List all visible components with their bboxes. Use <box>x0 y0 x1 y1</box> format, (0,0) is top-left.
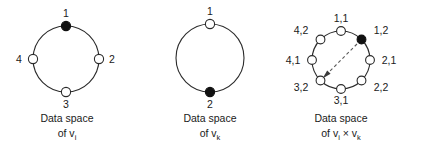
ring-vi <box>33 26 99 92</box>
caption-vixvk-line1: Data space <box>314 112 367 124</box>
caption-vi-prefix: of v <box>58 127 76 139</box>
node-label-vixvk-2-2: 2,2 <box>374 81 389 93</box>
node-vixvk-1-2[interactable] <box>357 35 366 44</box>
node-label-vixvk-2-1: 2,1 <box>382 54 397 66</box>
node-vi-2[interactable] <box>94 54 103 63</box>
caption-vixvk-prefix: of v <box>321 127 339 139</box>
node-label-vi-3: 3 <box>63 98 69 110</box>
node-label-vixvk-4-1: 4,1 <box>286 54 301 66</box>
caption-vi-line1: Data space <box>40 112 93 124</box>
node-label-vixvk-3-1: 3,1 <box>334 94 349 106</box>
node-vixvk-4-2[interactable] <box>316 35 325 44</box>
transition-arrow-head <box>323 70 331 78</box>
node-vk-1[interactable] <box>205 19 214 28</box>
node-vixvk-2-1[interactable] <box>366 56 375 65</box>
node-vi-1[interactable] <box>61 21 70 30</box>
node-vi-4[interactable] <box>28 54 37 63</box>
node-label-vixvk-1-1: 1,1 <box>334 12 349 24</box>
node-vk-2[interactable] <box>205 87 214 96</box>
caption-vk-line1: Data space <box>183 112 236 124</box>
panel-vk: 1 2 Data space of vk <box>176 5 244 142</box>
node-label-vk-1: 1 <box>207 5 213 17</box>
caption-vi-line2: of vi <box>58 127 77 142</box>
caption-vk-subscript: k <box>217 133 221 142</box>
node-label-vi-1: 1 <box>63 7 69 19</box>
node-vi-3[interactable] <box>61 87 70 96</box>
caption-vi-subscript: i <box>75 133 77 142</box>
node-vixvk-4-1[interactable] <box>308 56 317 65</box>
node-label-vi-4: 4 <box>16 53 22 65</box>
caption-vixvk-line2: of vi × vk <box>321 127 361 142</box>
node-label-vixvk-4-2: 4,2 <box>294 24 309 36</box>
node-vixvk-2-2[interactable] <box>357 76 366 85</box>
node-label-vixvk-3-2: 3,2 <box>294 81 309 93</box>
node-label-vixvk-1-2: 1,2 <box>374 24 389 36</box>
caption-vixvk-subscript-k: k <box>357 133 361 142</box>
ring-vk <box>176 24 244 92</box>
caption-vixvk-mid: × v <box>340 127 358 139</box>
node-vixvk-3-1[interactable] <box>337 85 346 94</box>
node-label-vi-2: 2 <box>109 53 115 65</box>
caption-vk-prefix: of v <box>200 127 218 139</box>
data-space-figure: 1 2 3 4 Data space of vi 1 2 Data space … <box>0 0 422 150</box>
node-vixvk-1-1[interactable] <box>337 27 346 36</box>
caption-vk-line2: of vk <box>200 127 221 142</box>
panel-vi-x-vk: 1,1 1,2 2,1 2,2 3,1 3,2 4,1 4,2 Data spa… <box>286 12 397 142</box>
panel-vi: 1 2 3 4 Data space of vi <box>16 7 115 142</box>
transition-arrow-line <box>327 44 358 75</box>
node-label-vk-2: 2 <box>207 98 213 110</box>
